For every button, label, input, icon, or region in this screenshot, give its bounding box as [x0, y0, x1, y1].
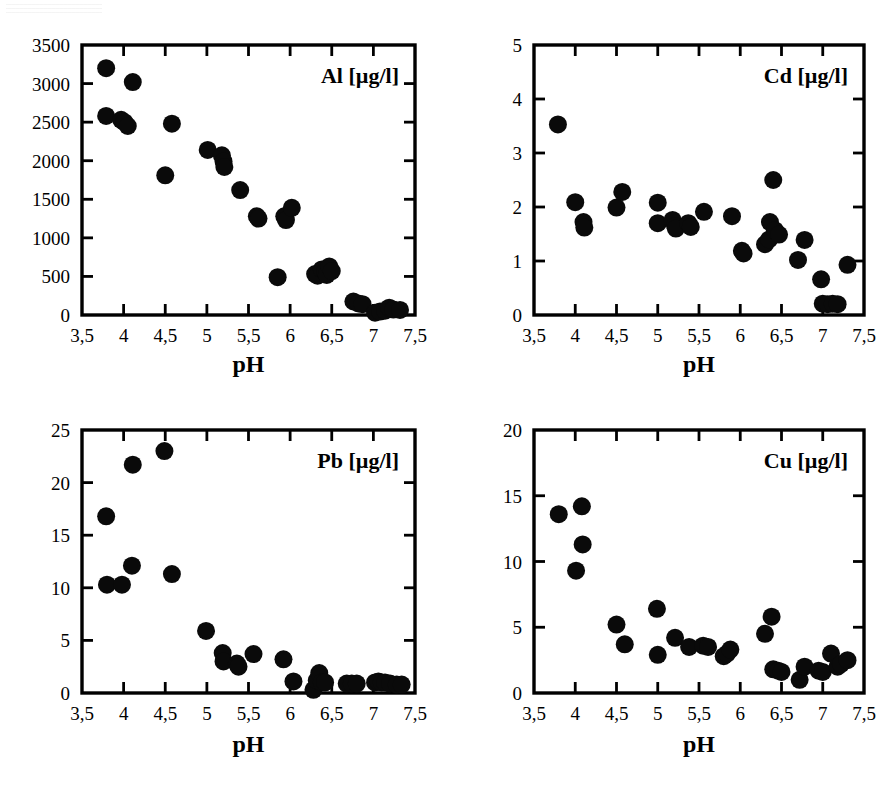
y-tick-label: 3500: [32, 35, 70, 56]
x-tick-label: 6: [285, 703, 295, 724]
x-tick-label: 7,5: [403, 703, 427, 724]
y-tick-labels: 0500100015002000250030003500: [32, 35, 70, 326]
x-tick-label: 7: [818, 703, 828, 724]
x-tick-label: 3,5: [522, 703, 546, 724]
panel-cu: 051015203,544,555,566,577,5pHCu [µg/l]: [446, 400, 893, 785]
data-point: [695, 203, 713, 221]
y-tick-label: 500: [42, 266, 71, 287]
y-tick-label: 0: [513, 305, 523, 326]
x-tick-label: 6,5: [770, 325, 794, 346]
y-tick-label: 5: [513, 35, 523, 56]
data-points-cd: [549, 115, 857, 313]
chart-al: 05001000150020002500300035003,544,555,56…: [0, 0, 446, 400]
data-point: [215, 158, 233, 176]
y-tick-labels: 05101520: [503, 420, 522, 704]
y-tick-label: 2000: [32, 151, 70, 172]
data-point: [829, 295, 847, 313]
data-point: [163, 115, 181, 133]
data-point: [649, 194, 667, 212]
data-point: [97, 107, 115, 125]
data-point: [789, 251, 807, 269]
panel-title-al: Al [µg/l]: [321, 63, 399, 88]
data-point: [770, 226, 788, 244]
data-point: [348, 675, 366, 693]
x-tick-label: 4,5: [605, 703, 629, 724]
data-point: [574, 535, 592, 553]
data-point: [97, 507, 115, 525]
data-point: [735, 244, 753, 262]
x-tick-label: 3,5: [70, 325, 94, 346]
data-point: [124, 456, 142, 474]
data-point: [573, 497, 591, 515]
data-point: [764, 171, 782, 189]
data-point: [699, 638, 717, 656]
data-point: [163, 565, 181, 583]
data-point: [613, 183, 631, 201]
x-tick-label: 4: [571, 703, 581, 724]
x-tick-label: 4: [571, 325, 581, 346]
data-point: [608, 616, 626, 634]
x-tick-label: 6: [285, 325, 295, 346]
data-point: [123, 557, 141, 575]
panel-pb: 05101520253,544,555,566,577,5pHPb [µg/l]: [0, 400, 446, 785]
data-point: [796, 231, 814, 249]
x-tick-label: 5,5: [237, 325, 261, 346]
data-point: [269, 268, 287, 286]
chart-cu: 051015203,544,555,566,577,5pHCu [µg/l]: [446, 400, 893, 785]
y-tick-label: 0: [513, 683, 523, 704]
y-tick-label: 15: [51, 525, 70, 546]
figure-scatter-grid: 05001000150020002500300035003,544,555,56…: [0, 0, 893, 785]
data-point: [721, 641, 739, 659]
data-point: [249, 210, 267, 228]
data-point: [839, 651, 857, 669]
data-point: [274, 650, 292, 668]
data-points-cu: [550, 497, 857, 689]
data-point: [323, 262, 341, 280]
data-point: [566, 193, 584, 211]
data-point: [608, 199, 626, 217]
y-tick-labels: 0510152025: [51, 420, 70, 704]
data-point: [575, 219, 593, 237]
y-tick-label: 0: [61, 305, 71, 326]
data-point: [649, 646, 667, 664]
y-tick-label: 3000: [32, 74, 70, 95]
x-tick-label: 7: [369, 703, 379, 724]
panel-al: 05001000150020002500300035003,544,555,56…: [0, 0, 446, 400]
data-points-pb: [97, 442, 411, 699]
y-tick-labels: 012345: [513, 35, 523, 326]
data-point: [648, 600, 666, 618]
x-tick-label: 7,5: [852, 325, 876, 346]
data-point: [549, 115, 567, 133]
x-tick-label: 5: [202, 703, 212, 724]
x-tick-label: 5,5: [687, 703, 711, 724]
x-tick-label: 4,5: [153, 325, 177, 346]
data-point: [839, 256, 857, 274]
data-point: [812, 270, 830, 288]
data-point: [124, 73, 142, 91]
y-tick-label: 25: [51, 420, 70, 441]
x-axis-title: pH: [232, 351, 264, 377]
x-axis-title: pH: [232, 731, 264, 757]
x-axis-title: pH: [683, 731, 715, 757]
y-tick-label: 20: [51, 473, 70, 494]
data-point: [113, 576, 131, 594]
y-tick-label: 1500: [32, 189, 70, 210]
x-tick-label: 4,5: [153, 703, 177, 724]
data-point: [119, 117, 137, 135]
panel-title-cd: Cd [µg/l]: [764, 63, 848, 88]
data-point: [567, 562, 585, 580]
x-tick-labels: 3,544,555,566,577,5: [70, 325, 427, 346]
x-tick-label: 7,5: [852, 703, 876, 724]
x-tick-label: 6: [736, 703, 746, 724]
y-tick-label: 2500: [32, 112, 70, 133]
y-tick-label: 4: [513, 89, 523, 110]
x-tick-label: 5,5: [687, 325, 711, 346]
data-point: [773, 663, 791, 681]
y-tick-label: 3: [513, 143, 523, 164]
y-axis-ticks: [534, 99, 864, 261]
x-tick-label: 5: [653, 325, 663, 346]
panel-title-pb: Pb [µg/l]: [317, 448, 399, 473]
data-point: [723, 207, 741, 225]
x-tick-label: 7: [369, 325, 379, 346]
y-tick-label: 2: [513, 197, 523, 218]
